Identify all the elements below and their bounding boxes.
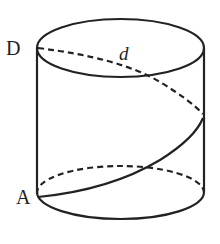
helix-front-solid	[38, 118, 203, 197]
point-d-label: D	[6, 38, 20, 58]
bottom-ellipse-front	[37, 192, 204, 219]
diameter-label: d	[119, 44, 129, 63]
cylinder-diagram: D A d	[0, 0, 220, 244]
point-a-label: A	[16, 187, 30, 207]
cylinder-figure	[0, 0, 220, 244]
